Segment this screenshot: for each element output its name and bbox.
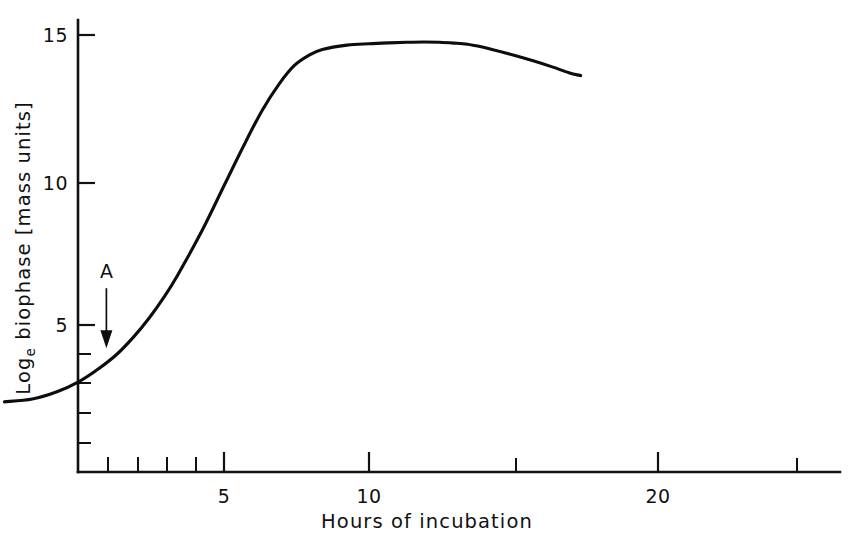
y-axis-title-rest: biophase [mass units] [12, 101, 35, 347]
annotation-a-label: A [100, 260, 113, 282]
x-ticklabel-5: 5 [218, 485, 231, 507]
annotation-a: A [100, 260, 113, 348]
x-ticklabel-10: 10 [356, 485, 381, 507]
y-axis-title-subscript: e [22, 347, 38, 356]
y-axis-title: Loge biophase [mass units] [12, 101, 38, 394]
y-axis-tick-labels: 15 10 5 [43, 24, 68, 336]
annotation-a-arrow-head [100, 330, 112, 348]
y-ticklabel-10: 10 [43, 172, 68, 194]
x-axis-tick-labels: 5 10 20 [218, 485, 671, 507]
data-series-group [4, 42, 580, 402]
y-axis-title-main: Log [12, 357, 35, 395]
growth-curve-line [4, 42, 580, 402]
x-ticklabel-20: 20 [645, 485, 670, 507]
x-axis-ticks [108, 452, 797, 472]
y-ticklabel-5: 5 [55, 314, 68, 336]
y-ticklabel-15: 15 [43, 24, 68, 46]
x-axis-title: Hours of incubation [321, 510, 533, 533]
figure-container: 15 10 5 5 10 20 A [0, 0, 855, 541]
growth-curve-chart: 15 10 5 5 10 20 A [0, 0, 855, 541]
y-axis-title-group: Loge biophase [mass units] [12, 101, 38, 394]
